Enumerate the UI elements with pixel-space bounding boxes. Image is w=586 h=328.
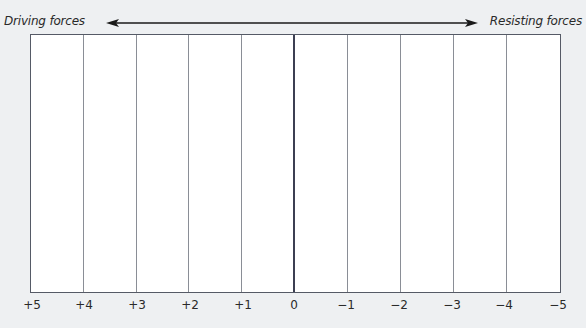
scale-tick: −2 xyxy=(390,298,408,312)
grid-line xyxy=(347,35,348,292)
grid-line xyxy=(400,35,401,292)
grid-line xyxy=(136,35,137,292)
grid-line xyxy=(83,35,84,292)
double-arrow-icon xyxy=(106,16,478,30)
scale-labels: +5 +4 +3 +2 +1 0 −1 −2 −3 −4 −5 xyxy=(0,298,586,314)
scale-tick: −1 xyxy=(337,298,355,312)
grid-line xyxy=(453,35,454,292)
resisting-forces-label: Resisting forces xyxy=(490,14,582,28)
grid-line xyxy=(241,35,242,292)
grid-line xyxy=(188,35,189,292)
scale-tick: +5 xyxy=(23,298,41,312)
scale-tick: −3 xyxy=(443,298,461,312)
driving-forces-label: Driving forces xyxy=(4,14,85,28)
scale-tick: +3 xyxy=(128,298,146,312)
grid-line xyxy=(506,35,507,292)
force-grid xyxy=(30,34,561,293)
scale-tick: −4 xyxy=(495,298,513,312)
center-line xyxy=(293,35,295,292)
scale-tick: +2 xyxy=(181,298,199,312)
scale-tick: +4 xyxy=(75,298,93,312)
scale-tick: +1 xyxy=(234,298,252,312)
scale-tick: −5 xyxy=(549,298,567,312)
scale-tick: 0 xyxy=(290,298,298,312)
